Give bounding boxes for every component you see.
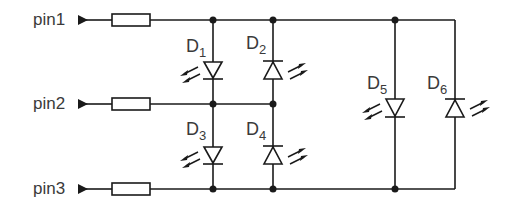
d5-label: D5 (367, 74, 387, 96)
pin2-arrow-icon (78, 99, 88, 109)
pin2-label: pin2 (33, 95, 65, 112)
light-arrows-d2-icon (288, 63, 308, 79)
light-arrows-d6-icon (470, 100, 490, 116)
d1-label: D1 (186, 37, 206, 59)
pin3-label: pin3 (33, 180, 65, 197)
pin1-arrow-icon (78, 15, 88, 25)
resistor-2 (112, 98, 150, 110)
d2-label: D2 (246, 34, 266, 56)
circuit-canvas (0, 0, 523, 217)
pin1-label: pin1 (33, 11, 65, 28)
diode-d4-icon (263, 146, 283, 164)
light-arrows-d1-icon (180, 67, 200, 83)
light-arrows-d5-icon (362, 104, 382, 120)
diode-d2-icon (263, 61, 283, 79)
resistor-3 (112, 183, 150, 195)
resistor-1 (112, 14, 150, 26)
light-arrows-d4-icon (288, 148, 308, 164)
diode-d5-icon (385, 99, 405, 117)
d3-label: D3 (186, 120, 206, 142)
diode-d1-icon (203, 62, 223, 79)
diode-d3-icon (203, 147, 223, 164)
diode-d6-icon (445, 99, 465, 117)
light-arrows-d3-icon (180, 152, 200, 168)
pin3-arrow-icon (78, 184, 88, 194)
d6-label: D6 (427, 74, 447, 96)
d4-label: D4 (246, 120, 266, 142)
